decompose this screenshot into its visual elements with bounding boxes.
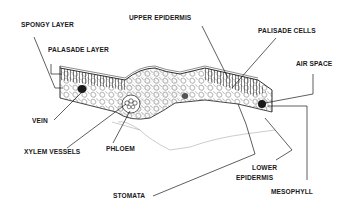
label-palisade-cells: PALISADE CELLS: [258, 27, 316, 35]
label-palasade-layer: PALASADE LAYER: [48, 46, 109, 54]
label-upper-epidermis: UPPER EPIDERMIS: [129, 14, 191, 22]
leaf-underside: [112, 122, 275, 150]
label-lower-epidermis-line1: LOWER: [252, 164, 277, 172]
label-mesophyll: MESOPHYLL: [271, 188, 313, 196]
label-stomata: STOMATA: [113, 192, 145, 200]
label-xylem-vessels: XYLEM VESSELS: [24, 148, 80, 156]
label-lower-epidermis-line2: EPIDERMIS: [236, 174, 273, 182]
label-vein: VEIN: [32, 117, 48, 125]
vein-small: [182, 93, 188, 99]
label-phloem: PHLOEM: [106, 145, 135, 153]
label-air-space: AIR SPACE: [296, 60, 332, 68]
leaf-cross-section-diagram: SPONGY LAYER PALASADE LAYER UPPER EPIDER…: [0, 0, 349, 214]
label-spongy-layer: SPONGY LAYER: [21, 21, 74, 29]
vascular-bundle: [122, 95, 140, 113]
leaf-body: [60, 66, 272, 119]
vein-dark: [78, 85, 87, 93]
